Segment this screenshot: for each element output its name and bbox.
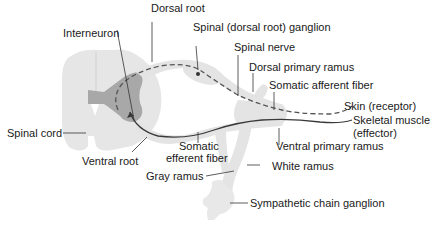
label-ventral-primary-ramus: Ventral primary ramus	[276, 140, 384, 152]
spinal-nerve-diagram: Dorsal root Spinal (dorsal root) ganglio…	[0, 0, 435, 228]
label-skeletal-muscle: Skeletal muscle	[353, 114, 430, 126]
label-gray-ramus: Gray ramus	[146, 170, 203, 182]
label-spinal-ganglion: Spinal (dorsal root) ganglion	[193, 21, 331, 33]
label-white-ramus: White ramus	[272, 160, 334, 172]
label-skeletal-muscle-effector: (effector)	[353, 127, 397, 139]
label-somatic-efferent-1: Somatic	[179, 140, 219, 152]
label-dorsal-root: Dorsal root	[151, 2, 205, 14]
label-interneuron: Interneuron	[63, 27, 119, 39]
label-ventral-root: Ventral root	[82, 155, 138, 167]
label-spinal-nerve: Spinal nerve	[234, 41, 295, 53]
label-somatic-efferent-2: efferent fiber	[166, 152, 228, 164]
label-skin-receptor: Skin (receptor)	[344, 100, 416, 112]
label-somatic-afferent-fiber: Somatic afferent fiber	[269, 79, 373, 91]
label-dorsal-primary-ramus: Dorsal primary ramus	[249, 61, 354, 73]
ganglion-cell-body-dot	[196, 72, 200, 76]
label-sympathetic-chain-ganglion: Sympathetic chain ganglion	[250, 197, 385, 209]
label-spinal-cord: Spinal cord	[7, 127, 62, 139]
